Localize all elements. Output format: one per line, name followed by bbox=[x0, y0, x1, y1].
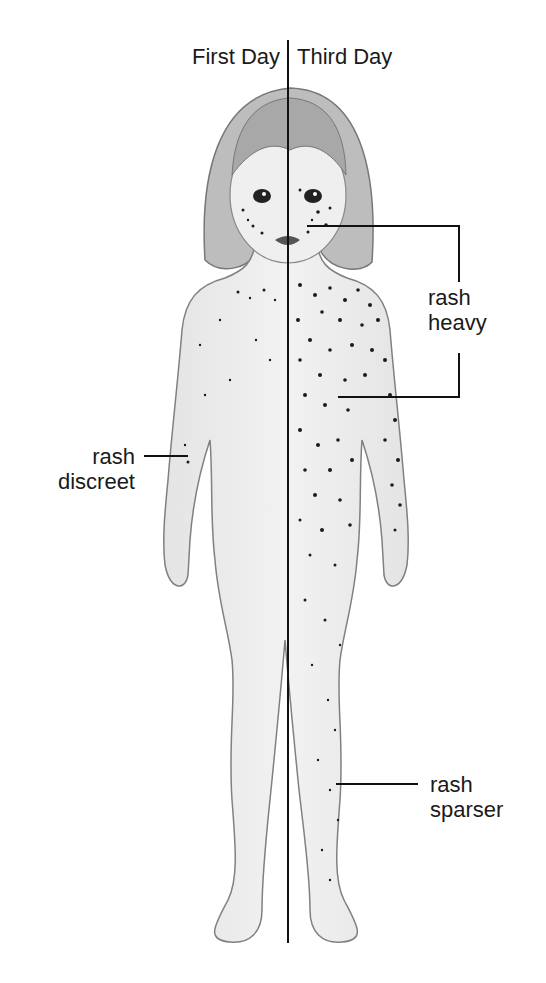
label-rash-sparser-line1: rash bbox=[430, 772, 503, 797]
label-rash-discreet-line2: discreet bbox=[40, 469, 135, 494]
right-eye bbox=[304, 189, 322, 203]
label-rash-sparser-line2: sparser bbox=[430, 797, 503, 822]
label-rash-discreet: rash discreet bbox=[40, 444, 135, 494]
label-first-day: First Day bbox=[150, 44, 280, 69]
label-rash-sparser: rash sparser bbox=[430, 772, 503, 822]
label-rash-discreet-line1: rash bbox=[40, 444, 135, 469]
label-rash-heavy-line2: heavy bbox=[428, 310, 487, 335]
label-third-day: Third Day bbox=[297, 44, 392, 69]
label-rash-heavy-line1: rash bbox=[428, 285, 487, 310]
label-rash-heavy: rash heavy bbox=[428, 285, 487, 335]
left-eye bbox=[253, 189, 271, 203]
